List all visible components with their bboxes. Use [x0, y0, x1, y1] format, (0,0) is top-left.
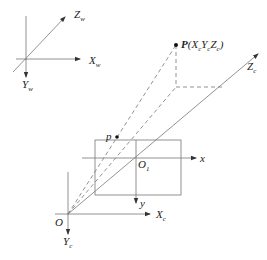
world-point-P	[174, 43, 178, 47]
camera-frame	[55, 54, 258, 234]
world-frame	[13, 16, 80, 77]
image-y-label: y	[139, 197, 145, 209]
camera-model-diagram: Zw Xw Yw x y O1 O Xc Yc Zc P(XcYcZc) p	[0, 0, 267, 260]
image-x-label: x	[199, 152, 205, 164]
camera-z-axis	[68, 54, 258, 214]
world-point-label: P(XcYcZc)	[181, 38, 224, 53]
world-y-label: Yw	[22, 78, 33, 93]
image-point-p	[115, 135, 119, 139]
image-point-label: p	[105, 130, 112, 142]
camera-x-label: Xc	[155, 208, 167, 223]
camera-origin-label: O	[55, 216, 63, 228]
projection-lines	[68, 45, 222, 214]
world-z-axis	[13, 17, 65, 72]
world-z-label: Zw	[74, 8, 85, 23]
image-origin-label: O1	[138, 158, 149, 173]
world-x-label: Xw	[88, 54, 101, 69]
projection-ray-to-P	[68, 45, 176, 214]
camera-z-label: Zc	[247, 60, 257, 75]
camera-y-label: Yc	[63, 235, 73, 250]
